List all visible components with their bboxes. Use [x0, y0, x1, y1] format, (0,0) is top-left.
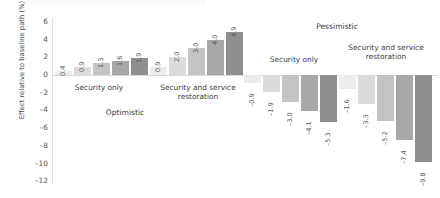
cropped-header-artifact [26, 0, 206, 6]
scenario-label-optimistic: Optimistic [70, 108, 180, 117]
bar [244, 75, 261, 83]
bar-value-label: 0.9 [154, 62, 162, 73]
y-tick-neg10: –10 [22, 159, 48, 168]
bar [226, 32, 243, 75]
group-label-optimistic-security-only: Security only [44, 83, 154, 92]
bar [263, 75, 280, 92]
bar [282, 75, 299, 102]
bar [396, 75, 413, 140]
y-tick-2: 2 [22, 52, 48, 61]
y-tick-6: 6 [22, 17, 48, 26]
bar-value-label: –5.2 [381, 131, 389, 145]
bar-value-label: 4.9 [230, 26, 238, 37]
bar-value-label: –3.0 [286, 112, 294, 126]
bar-value-label: –7.4 [400, 151, 408, 165]
y-tick-neg12: –12 [22, 176, 48, 185]
bar [415, 75, 432, 162]
bar-value-label: 4.0 [211, 34, 219, 45]
bar-value-label: 3.0 [192, 43, 200, 54]
bar-value-label: 1.9 [135, 53, 143, 64]
bar-value-label: –4.1 [305, 121, 313, 135]
bar-value-label: 2.0 [173, 52, 181, 63]
group-label-pessimistic-security-only: Security only [248, 55, 340, 64]
bar-value-label: –1.6 [343, 99, 351, 113]
bar [320, 75, 337, 122]
bar [377, 75, 394, 121]
bar [358, 75, 375, 104]
y-tick-neg8: –8 [22, 141, 48, 150]
bar [339, 75, 356, 89]
bar-chart: Effect relative to baseline path (%) 642… [0, 0, 440, 198]
bar-value-label: –5.3 [324, 132, 332, 146]
bar-value-label: 1.3 [97, 58, 105, 69]
bar-value-label: 0.4 [59, 66, 67, 77]
group-label-optimistic-security-and-service-restoration: Security and service restoration [148, 83, 248, 101]
bar-value-label: 0.9 [78, 62, 86, 73]
bar-value-label: –3.3 [362, 114, 370, 128]
bar-value-label: –0.9 [248, 93, 256, 107]
scenario-label-pessimistic: Pessimistic [282, 22, 392, 31]
y-tick-4: 4 [22, 35, 48, 44]
y-axis-line [52, 18, 53, 183]
y-tick-neg4: –4 [22, 105, 48, 114]
bar-value-label: –1.9 [267, 102, 275, 116]
bar-value-label: –9.8 [419, 172, 427, 186]
y-tick-0: 0 [22, 70, 48, 79]
y-tick-neg6: –6 [22, 123, 48, 132]
bar-value-label: 1.6 [116, 55, 124, 66]
bar [301, 75, 318, 111]
group-label-pessimistic-security-and-service-restoration: Security and service restoration [336, 43, 436, 61]
